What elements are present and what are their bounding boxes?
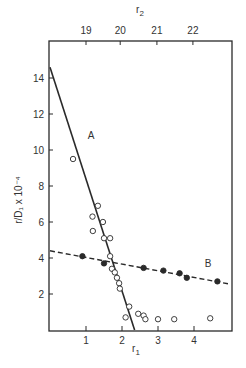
open-marker	[136, 311, 141, 316]
fit-lines	[50, 67, 230, 330]
filled-marker	[215, 279, 220, 284]
data-points	[70, 156, 220, 322]
x2-tick-label: 21	[151, 25, 163, 36]
filled-marker	[184, 275, 189, 280]
y-tick-label: 14	[33, 73, 45, 84]
series-a-label: A	[88, 130, 95, 141]
filled-marker	[101, 261, 106, 266]
y-tick-label: 10	[33, 145, 45, 156]
open-marker	[155, 317, 160, 322]
filled-marker	[141, 265, 146, 270]
x2-tick-label: 19	[80, 25, 92, 36]
y-axis-ticks: 2468101214	[33, 73, 53, 300]
x2-tick-label: 22	[187, 25, 199, 36]
filled-marker	[161, 268, 166, 273]
x2-axis-ticks: 19202122	[80, 25, 198, 45]
open-marker	[101, 236, 106, 241]
open-marker	[114, 275, 119, 280]
plot-border	[49, 41, 232, 331]
open-marker	[208, 316, 213, 321]
open-marker	[100, 219, 105, 224]
y-axis-title: r/D₁ x 10⁻⁴	[13, 176, 24, 224]
x-tick-label: 4	[191, 335, 197, 346]
x-axis-ticks: 1234	[83, 326, 197, 346]
open-marker	[112, 270, 117, 275]
x-tick-label: 2	[119, 335, 125, 346]
y-tick-label: 2	[38, 289, 44, 300]
y-tick-label: 4	[38, 253, 44, 264]
x-tick-label: 3	[155, 335, 161, 346]
plot-frame	[49, 41, 232, 331]
x2-axis-title: r2	[136, 4, 144, 18]
open-marker	[143, 317, 148, 322]
y-tick-label: 6	[38, 217, 44, 228]
filled-marker	[80, 254, 85, 259]
open-marker	[127, 304, 132, 309]
open-marker	[116, 281, 121, 286]
open-marker	[107, 254, 112, 259]
x-tick-label: 1	[83, 335, 89, 346]
y-tick-label: 8	[38, 181, 44, 192]
y-tick-label: 12	[33, 109, 45, 120]
chart-canvas: 1234 19202122 2468101214 r2 r1 r/D₁ x 10…	[0, 0, 246, 368]
open-marker	[123, 315, 128, 320]
open-marker	[90, 214, 95, 219]
filled-marker	[177, 271, 182, 276]
open-marker	[95, 203, 100, 208]
open-marker	[172, 317, 177, 322]
open-marker	[90, 228, 95, 233]
x2-tick-label: 20	[115, 25, 127, 36]
open-marker	[117, 286, 122, 291]
open-marker	[107, 236, 112, 241]
fit-line-b	[50, 251, 230, 284]
x-axis-title: r1	[132, 343, 140, 357]
open-marker	[70, 156, 75, 161]
series-b-label: B	[205, 258, 212, 269]
